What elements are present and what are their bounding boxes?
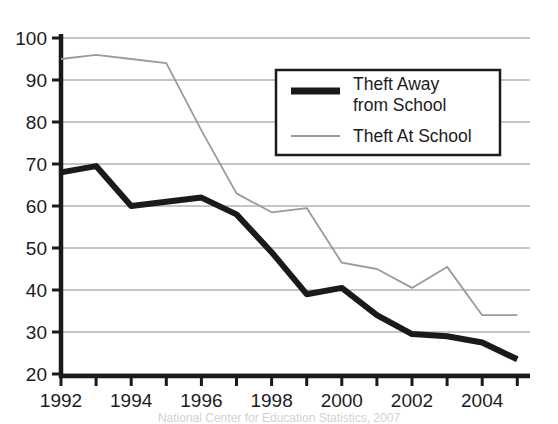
x-tick-label: 2004 <box>461 390 504 411</box>
line-chart: 100 90 80 70 60 50 40 30 20 <box>0 0 558 424</box>
y-axis-labels: 100 90 80 70 60 50 40 30 20 <box>15 28 47 385</box>
chart-legend: Theft Away from School Theft At School <box>276 70 500 155</box>
series-line-theft-away-from-school <box>61 166 517 359</box>
chart-canvas: 100 90 80 70 60 50 40 30 20 <box>0 0 558 424</box>
x-tick-label: 2002 <box>391 390 433 411</box>
y-tick-label: 40 <box>26 280 47 301</box>
y-tick-label: 80 <box>26 112 47 133</box>
x-tick-label: 1992 <box>40 390 82 411</box>
y-tick-label: 30 <box>26 322 47 343</box>
source-caption: National Center for Education Statistics… <box>158 411 400 424</box>
y-tick-label: 70 <box>26 154 47 175</box>
y-tick-label: 90 <box>26 70 47 91</box>
y-tick-label: 20 <box>26 364 47 385</box>
x-tick-label: 1996 <box>180 390 222 411</box>
y-tick-label: 100 <box>15 28 47 49</box>
x-tick-label: 1994 <box>110 390 153 411</box>
x-tick-label: 1998 <box>250 390 292 411</box>
y-tick-label: 60 <box>26 196 47 217</box>
legend-label-theft-at-school: Theft At School <box>353 126 472 146</box>
y-tick-label: 50 <box>26 238 47 259</box>
x-axis-labels: 1992 1994 1996 1998 2000 2002 2004 <box>40 390 504 411</box>
legend-label-theft-away-from-school-line2: from School <box>353 95 446 115</box>
legend-label-theft-away-from-school-line1: Theft Away <box>353 74 440 94</box>
x-tick-label: 2000 <box>321 390 363 411</box>
